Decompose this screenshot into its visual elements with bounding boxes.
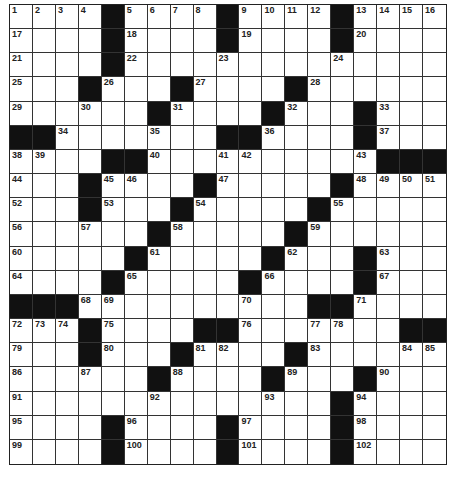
grid-cell[interactable] [217, 367, 240, 391]
grid-cell[interactable] [331, 102, 354, 126]
grid-cell[interactable]: 78 [331, 319, 354, 343]
grid-cell[interactable]: 75 [102, 319, 125, 343]
grid-cell[interactable] [148, 416, 171, 440]
grid-cell[interactable]: 45 [102, 174, 125, 198]
grid-cell[interactable] [194, 367, 217, 391]
grid-cell[interactable]: 11 [285, 5, 308, 29]
grid-cell[interactable]: 54 [194, 198, 217, 222]
grid-cell[interactable] [171, 247, 194, 271]
grid-cell[interactable] [308, 174, 331, 198]
grid-cell[interactable]: 91 [10, 392, 33, 416]
grid-cell[interactable]: 41 [217, 150, 240, 174]
grid-cell[interactable] [194, 392, 217, 416]
grid-cell[interactable] [56, 102, 79, 126]
grid-cell[interactable]: 2 [33, 5, 56, 29]
grid-cell[interactable] [79, 150, 102, 174]
grid-cell[interactable] [33, 53, 56, 77]
grid-cell[interactable] [125, 319, 148, 343]
grid-cell[interactable]: 84 [400, 343, 423, 367]
grid-cell[interactable] [285, 53, 308, 77]
grid-cell[interactable] [171, 319, 194, 343]
grid-cell[interactable] [125, 198, 148, 222]
grid-cell[interactable] [423, 198, 446, 222]
grid-cell[interactable]: 29 [10, 102, 33, 126]
grid-cell[interactable] [285, 416, 308, 440]
grid-cell[interactable] [285, 29, 308, 53]
grid-cell[interactable]: 38 [10, 150, 33, 174]
grid-cell[interactable] [239, 102, 262, 126]
grid-cell[interactable]: 22 [125, 53, 148, 77]
grid-cell[interactable] [79, 53, 102, 77]
grid-cell[interactable] [400, 222, 423, 246]
grid-cell[interactable] [217, 247, 240, 271]
grid-cell[interactable] [400, 102, 423, 126]
grid-cell[interactable]: 81 [194, 343, 217, 367]
grid-cell[interactable] [423, 271, 446, 295]
grid-cell[interactable] [56, 53, 79, 77]
grid-cell[interactable]: 21 [10, 53, 33, 77]
grid-cell[interactable] [102, 126, 125, 150]
grid-cell[interactable] [400, 295, 423, 319]
grid-cell[interactable] [423, 222, 446, 246]
grid-cell[interactable] [194, 295, 217, 319]
grid-cell[interactable]: 65 [125, 271, 148, 295]
grid-cell[interactable] [285, 295, 308, 319]
grid-cell[interactable] [33, 222, 56, 246]
grid-cell[interactable] [33, 343, 56, 367]
grid-cell[interactable]: 63 [377, 247, 400, 271]
grid-cell[interactable] [171, 150, 194, 174]
grid-cell[interactable]: 58 [171, 222, 194, 246]
grid-cell[interactable] [400, 126, 423, 150]
grid-cell[interactable] [79, 271, 102, 295]
grid-cell[interactable] [262, 295, 285, 319]
grid-cell[interactable]: 35 [148, 126, 171, 150]
grid-cell[interactable] [423, 367, 446, 391]
grid-cell[interactable]: 66 [262, 271, 285, 295]
grid-cell[interactable]: 15 [400, 5, 423, 29]
grid-cell[interactable]: 89 [285, 367, 308, 391]
grid-cell[interactable]: 51 [423, 174, 446, 198]
grid-cell[interactable] [354, 343, 377, 367]
grid-cell[interactable] [194, 222, 217, 246]
grid-cell[interactable]: 16 [423, 5, 446, 29]
grid-cell[interactable] [377, 392, 400, 416]
grid-cell[interactable] [400, 198, 423, 222]
grid-cell[interactable]: 32 [285, 102, 308, 126]
grid-cell[interactable] [217, 295, 240, 319]
grid-cell[interactable] [400, 29, 423, 53]
grid-cell[interactable] [217, 222, 240, 246]
grid-cell[interactable] [331, 126, 354, 150]
grid-cell[interactable] [33, 440, 56, 464]
grid-cell[interactable] [331, 271, 354, 295]
grid-cell[interactable] [377, 77, 400, 101]
grid-cell[interactable] [239, 247, 262, 271]
grid-cell[interactable]: 30 [79, 102, 102, 126]
grid-cell[interactable] [262, 53, 285, 77]
grid-cell[interactable]: 97 [239, 416, 262, 440]
grid-cell[interactable] [239, 53, 262, 77]
grid-cell[interactable] [262, 150, 285, 174]
grid-cell[interactable] [262, 77, 285, 101]
grid-cell[interactable] [423, 53, 446, 77]
grid-cell[interactable]: 17 [10, 29, 33, 53]
grid-cell[interactable] [217, 392, 240, 416]
grid-cell[interactable] [217, 102, 240, 126]
grid-cell[interactable] [285, 198, 308, 222]
grid-cell[interactable]: 5 [125, 5, 148, 29]
grid-cell[interactable] [423, 247, 446, 271]
grid-cell[interactable]: 100 [125, 440, 148, 464]
grid-cell[interactable] [171, 392, 194, 416]
grid-cell[interactable] [239, 222, 262, 246]
grid-cell[interactable]: 62 [285, 247, 308, 271]
grid-cell[interactable] [239, 198, 262, 222]
grid-cell[interactable] [148, 343, 171, 367]
grid-cell[interactable]: 9 [239, 5, 262, 29]
grid-cell[interactable] [308, 416, 331, 440]
grid-cell[interactable]: 20 [354, 29, 377, 53]
grid-cell[interactable] [377, 198, 400, 222]
grid-cell[interactable] [285, 271, 308, 295]
grid-cell[interactable] [423, 102, 446, 126]
grid-cell[interactable] [239, 367, 262, 391]
grid-cell[interactable] [56, 440, 79, 464]
grid-cell[interactable] [331, 367, 354, 391]
